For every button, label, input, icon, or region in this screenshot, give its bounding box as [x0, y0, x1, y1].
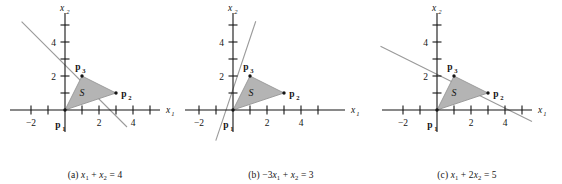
x-tick-label-4-c: 4: [503, 118, 508, 128]
x-tick-label-neg2-a: −2: [26, 118, 36, 128]
point-label-p3-a: p: [75, 62, 80, 72]
caption-a-plus: +: [91, 170, 96, 180]
point-sub-p3-a: 3: [82, 67, 86, 74]
plot-a: −2 2 4 2 4 x 1 x 2 p 1 p 2 p 3 S: [0, 0, 190, 160]
x-tick-label-neg2-c: −2: [398, 118, 408, 128]
caption-b: (b) −3x1 + x2 = 3: [185, 170, 377, 180]
point-p2-c: [486, 91, 489, 94]
y-axis-label-c: x: [431, 3, 437, 13]
caption-b-x1-sub: 1: [277, 174, 280, 181]
figure-convex-hull-panels: −2 2 4 2 4 x 1 x 2 p 1 p 2 p 3 S (a) x1 …: [0, 0, 562, 184]
caption-b-tag: (b): [248, 170, 259, 180]
caption-a-x2: x: [99, 170, 103, 180]
point-sub-p2-b: 2: [296, 94, 300, 101]
region-s-a: [65, 76, 116, 110]
caption-b-coef: −3: [262, 170, 272, 180]
region-s-b: [233, 76, 284, 110]
point-sub-p1-a: 1: [62, 125, 65, 132]
caption-c-x1-sub: 1: [455, 174, 458, 181]
caption-a-x1-sub: 1: [85, 174, 88, 181]
caption-c-eq: =: [484, 170, 489, 180]
point-label-p1-b: p: [223, 120, 228, 130]
point-label-p2-a: p: [121, 89, 126, 99]
point-label-p1-a: p: [55, 120, 60, 130]
point-label-p3-b: p: [243, 62, 248, 72]
point-p1-c: [435, 108, 438, 111]
point-sub-p3-c: 3: [454, 67, 458, 74]
y-axis-sub-a: 2: [66, 8, 70, 15]
x-tick-label-neg2-b: −2: [194, 118, 204, 128]
caption-a-x2-sub: 2: [104, 174, 107, 181]
x-tick-label-2-b: 2: [265, 118, 270, 128]
point-p3-b: [248, 74, 251, 77]
y-tick-label-2-b: 2: [219, 72, 224, 82]
plot-c: −2 2 4 2 4 x 1 x 2 p 1 p 2 p 3 S: [372, 0, 562, 160]
point-p3-a: [80, 74, 83, 77]
caption-c-x2-sub: 2: [478, 174, 481, 181]
caption-b-eq: =: [301, 170, 306, 180]
point-label-p2-b: p: [289, 89, 294, 99]
region-label-s-b: S: [249, 87, 254, 98]
x-axis-sub-c: 1: [543, 110, 546, 117]
y-tick-label-4-b: 4: [219, 38, 224, 48]
caption-c-value: 5: [492, 170, 497, 180]
panel-c: −2 2 4 2 4 x 1 x 2 p 1 p 2 p 3 S (c) x1 …: [372, 0, 562, 184]
y-axis-sub-b: 2: [234, 8, 238, 15]
point-sub-p2-c: 2: [500, 94, 504, 101]
x-axis-label-b: x: [350, 105, 356, 115]
point-p2-a: [114, 91, 117, 94]
x-tick-label-4-a: 4: [131, 118, 136, 128]
x-tick-label-2-a: 2: [97, 118, 102, 128]
x-axis-label-c: x: [537, 105, 543, 115]
point-sub-p2-a: 2: [128, 94, 132, 101]
plot-b: −2 2 4 2 4 x 1 x 2 p 1 p 2 p 3 S: [185, 0, 377, 160]
point-p2-b: [282, 91, 285, 94]
point-sub-p1-b: 1: [230, 125, 233, 132]
y-axis-label-b: x: [227, 3, 233, 13]
y-tick-label-2-a: 2: [51, 72, 56, 82]
x-tick-label-4-b: 4: [299, 118, 304, 128]
point-p1-b: [231, 108, 234, 111]
caption-b-value: 3: [309, 170, 314, 180]
point-label-p1-c: p: [427, 120, 432, 130]
caption-a-eq: =: [109, 170, 114, 180]
point-label-p3-c: p: [447, 62, 452, 72]
caption-a: (a) x1 + x2 = 4: [0, 170, 190, 180]
panel-b: −2 2 4 2 4 x 1 x 2 p 1 p 2 p 3 S (b) −3x…: [185, 0, 377, 184]
x-axis-sub-b: 1: [356, 110, 359, 117]
y-axis-label-a: x: [59, 3, 65, 13]
region-label-s-c: S: [452, 87, 457, 98]
y-tick-label-2-c: 2: [423, 72, 428, 82]
y-tick-label-4-a: 4: [51, 38, 56, 48]
point-p1-a: [63, 108, 66, 111]
point-label-p2-c: p: [493, 89, 498, 99]
caption-c-plus: +: [461, 170, 466, 180]
caption-c-tag: (c): [437, 170, 448, 180]
point-p3-c: [452, 74, 455, 77]
caption-b-x2-sub: 2: [295, 174, 298, 181]
x-tick-label-2-c: 2: [469, 118, 474, 128]
caption-b-plus: +: [283, 170, 288, 180]
region-s-c: [437, 76, 488, 110]
caption-c: (c) x1 + 2x2 = 5: [372, 170, 562, 180]
caption-a-value: 4: [117, 170, 122, 180]
caption-a-tag: (a): [68, 170, 79, 180]
y-axis-sub-c: 2: [438, 8, 442, 15]
y-tick-label-4-c: 4: [423, 38, 428, 48]
panel-a: −2 2 4 2 4 x 1 x 2 p 1 p 2 p 3 S (a) x1 …: [0, 0, 190, 184]
region-label-s-a: S: [80, 87, 85, 98]
point-sub-p3-b: 3: [250, 67, 254, 74]
x-axis-sub-a: 1: [171, 110, 174, 117]
constraint-line-a: [22, 22, 127, 127]
x-axis-label-a: x: [165, 105, 171, 115]
point-sub-p1-c: 1: [434, 125, 437, 132]
